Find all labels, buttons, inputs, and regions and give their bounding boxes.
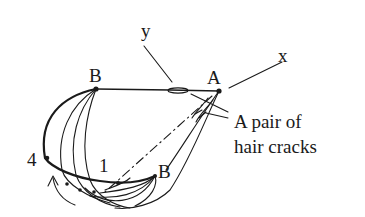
point-4-marker xyxy=(45,156,50,161)
edge-B-A xyxy=(96,89,219,91)
point-A-label: A xyxy=(207,67,221,88)
axis-x-label: x xyxy=(278,45,288,66)
point-B-top-label: B xyxy=(89,65,102,86)
point-B-top-marker xyxy=(93,86,98,91)
shell-fold-diagram: y x A B B 4 1 A pair of hair cracks xyxy=(0,0,365,217)
point-1-marker xyxy=(116,181,120,185)
annotation-line-1: A pair of xyxy=(234,111,302,132)
axis-y-label: y xyxy=(141,20,151,41)
fold-marker-1 xyxy=(65,182,69,186)
point-A-marker xyxy=(216,88,221,93)
y-axis-line xyxy=(144,46,172,82)
annotation-leader-2 xyxy=(206,113,228,118)
outer-right-curve xyxy=(115,91,219,208)
point-1-label: 1 xyxy=(99,155,109,176)
annotation-line-2: hair cracks xyxy=(234,136,317,157)
fold-marker-2 xyxy=(78,188,82,192)
x-axis-line xyxy=(229,62,282,88)
fold-marker-3 xyxy=(92,190,96,194)
point-4-label: 4 xyxy=(27,149,37,170)
point-B-bottom-label: B xyxy=(158,161,171,182)
fold-curve-3 xyxy=(85,89,130,208)
point-B-bottom-marker xyxy=(153,174,157,178)
